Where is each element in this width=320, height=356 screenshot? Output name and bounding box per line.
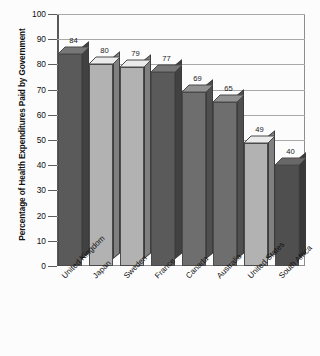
y-tick-mark xyxy=(48,165,57,166)
gridline xyxy=(57,64,305,65)
gridline xyxy=(57,190,305,191)
y-tick-label: 60 xyxy=(18,110,46,120)
y-tick-label: 100 xyxy=(18,9,46,19)
y-tick-mark xyxy=(48,90,57,91)
y-tick-label: 40 xyxy=(18,160,46,170)
y-tick-mark xyxy=(48,190,57,191)
gridline xyxy=(57,216,305,217)
y-tick-label: 70 xyxy=(18,85,46,95)
gridline xyxy=(57,115,305,116)
y-tick-label: 90 xyxy=(18,34,46,44)
gridline xyxy=(57,90,305,91)
bar-chart: Percentage of Health Expenditures Paid b… xyxy=(0,0,320,356)
y-tick-label: 30 xyxy=(18,185,46,195)
gridline xyxy=(57,39,305,40)
gridline xyxy=(57,165,305,166)
y-tick-mark xyxy=(48,216,57,217)
y-tick-label: 80 xyxy=(18,59,46,69)
y-tick-label: 0 xyxy=(18,261,46,271)
gridline xyxy=(57,14,305,15)
y-tick-mark xyxy=(48,115,57,116)
gridline xyxy=(57,140,305,141)
y-tick-mark xyxy=(48,39,57,40)
y-tick-label: 50 xyxy=(18,135,46,145)
y-tick-mark xyxy=(48,241,57,242)
y-tick-mark xyxy=(48,14,57,15)
y-tick-mark xyxy=(48,64,57,65)
y-tick-mark xyxy=(48,140,57,141)
y-tick-label: 20 xyxy=(18,211,46,221)
y-tick-mark xyxy=(48,266,57,267)
y-tick-label: 10 xyxy=(18,236,46,246)
